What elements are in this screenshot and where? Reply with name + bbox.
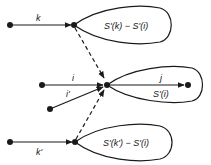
bottom-loop-label: S'(k') − S'(i) — [103, 138, 149, 148]
middle-loop-label: S'(i) — [153, 89, 169, 99]
bottom-edge-label: k' — [36, 147, 43, 157]
middle-edge-label-i: i — [72, 73, 75, 83]
middle-branch: i i' j S'(i) — [39, 67, 203, 112]
bottom-branch: k' S'(k') − S'(i) — [7, 124, 172, 160]
diagram: k S'(k) − S'(i) i i' j S'(i) k' S'(k') −… — [0, 0, 211, 165]
middle-end-node — [185, 82, 191, 88]
dashed-link-bottom — [76, 90, 104, 139]
top-loop-label: S'(k) − S'(i) — [104, 21, 148, 31]
dashed-link-top — [75, 28, 104, 78]
middle-edge-label-iprime: i' — [66, 89, 70, 99]
top-edge-label: k — [36, 13, 41, 23]
top-branch: k S'(k) − S'(i) — [7, 6, 171, 43]
middle-loop-edge-label: j — [159, 73, 163, 83]
